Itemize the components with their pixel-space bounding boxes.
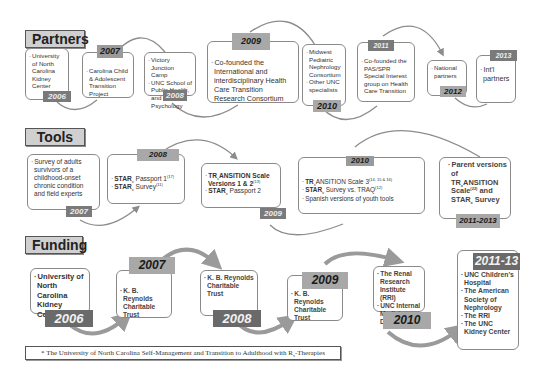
list-item: Victory Junction Camp [148, 56, 192, 79]
year-badge-2012: 2012 [440, 86, 466, 97]
year-badge-2009: 2009 [302, 272, 348, 289]
section-label-tools: Tools [25, 128, 85, 146]
year-badge-2011-2013: 2011-2013 [456, 214, 500, 228]
partner-card-2013: Int'l partners [476, 55, 516, 103]
tools-card-2009: TRxANSITION Scale Versions 1 & 2(13) STA… [201, 163, 281, 208]
partner-card-2009: Co-founded the International and interdi… [207, 41, 299, 103]
year-badge-2010: 2010 [346, 156, 374, 166]
list-item: Parent versions of TRxANSITION Scale(22)… [448, 161, 507, 205]
year-badge-2011: 2011 [368, 40, 394, 51]
funding-card-2006: University of North Carolina Kidney Cent… [30, 268, 90, 314]
section-label-funding: Funding [25, 236, 83, 254]
list-item: Int'l partners [480, 65, 512, 83]
year-badge-2013: 2013 [490, 50, 517, 61]
year-badge-2011-13: 2011-13 [473, 253, 520, 270]
year-badge-2009: 2009 [260, 208, 286, 219]
section-label-partners: Partners [25, 30, 85, 48]
year-badge-2010: 2010 [383, 312, 431, 329]
partner-card-2007: Carolina Child & Adolescent Transition P… [82, 52, 134, 98]
list-item: UNC Children's Hospital [461, 271, 515, 287]
year-badge-2010: 2010 [313, 100, 341, 112]
list-item: STARx Passport 1(17) [111, 175, 181, 183]
year-badge-2008: 2008 [163, 90, 187, 101]
list-item: Spanish versions of youth tools [302, 195, 421, 203]
list-item: K. B. Reynolds Charitable Trust [120, 287, 168, 319]
list-item: Survey of adults survivors of a childhoo… [31, 158, 96, 198]
list-item: STARx Survey(11) [111, 183, 181, 191]
list-item: The Renal Research Institute (RRI) [377, 270, 421, 302]
list-item: Co-founded the International and interdi… [211, 58, 295, 103]
list-item: Midwest Pediatric Nephrology Consortium [306, 48, 342, 78]
tools-card-2008: STARx Passport 1(17) STARx Survey(11) [107, 154, 185, 204]
funding-card-2007: K. B. Reynolds Charitable Trust [116, 270, 172, 318]
year-badge-2007: 2007 [97, 45, 123, 58]
list-item: Carolina Child & Adolescent Transition P… [86, 67, 130, 97]
list-item: The UNC Kidney Center [461, 320, 515, 336]
footnote: * The University of North Carolina Self-… [25, 346, 341, 360]
list-item: University of North Carolina Kidney Cent… [29, 52, 65, 90]
list-item: The RRI [461, 312, 515, 320]
list-item: K. B. Reynolds Charitable Trust [291, 290, 339, 322]
list-item: TRxANSITION Scale Versions 1 & 2(13) [205, 172, 277, 187]
list-item: STARx Survey vs. TRAQ(12) [302, 186, 421, 194]
year-badge-2006: 2006 [43, 91, 71, 102]
list-item: Other UNC specialists [306, 78, 342, 93]
year-badge-2008: 2008 [137, 149, 179, 161]
year-badge-2007: 2007 [129, 257, 175, 274]
list-item: K. B. Reynolds Charitable Trust [204, 274, 254, 298]
partner-card-2011: Co-founded the PAS/SPR Special Interest … [357, 42, 415, 102]
tools-card-2011-2013: Parent versions of TRxANSITION Scale(22)… [439, 157, 511, 219]
year-badge-2006: 2006 [45, 310, 93, 327]
year-badge-2007: 2007 [66, 206, 92, 217]
partner-card-2010: Midwest Pediatric Nephrology Consortium … [302, 44, 346, 106]
list-item: National partners [431, 64, 463, 79]
list-item: The American Society of Nephrology [461, 287, 515, 312]
list-item: STARx Passport 2 [205, 187, 277, 195]
tools-card-2007: Survey of adults survivors of a childhoo… [27, 154, 100, 210]
year-badge-2009: 2009 [232, 33, 270, 50]
list-item: Co-founded the PAS/SPR Special Interest … [361, 57, 411, 95]
year-badge-2008: 2008 [213, 310, 261, 327]
funding-card-2010: The Renal Research Institute (RRI) UNC I… [373, 266, 425, 312]
